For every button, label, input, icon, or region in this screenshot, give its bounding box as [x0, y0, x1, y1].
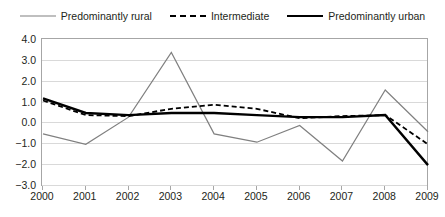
- legend-item[interactable]: Predominantly rural: [20, 10, 152, 22]
- legend-item-label: Predominantly urban: [328, 10, 425, 22]
- y-axis-tick-label: 4.0: [2, 33, 36, 45]
- legend-item-label: Intermediate: [211, 10, 269, 22]
- dashed-line-swatch-icon: [170, 11, 206, 21]
- y-axis-tick-label: −2.0: [2, 158, 36, 170]
- x-axis-tick-label: 2001: [73, 190, 96, 202]
- y-axis-tick-label: 1.0: [2, 96, 36, 108]
- x-axis-tick-label: 2006: [287, 190, 310, 202]
- x-axis-tick-label: 2003: [159, 190, 182, 202]
- y-axis-tick-label: 3.0: [2, 54, 36, 66]
- x-axis-tick-label: 2007: [330, 190, 353, 202]
- y-axis-tick-label: −1.0: [2, 137, 36, 149]
- legend-item[interactable]: Intermediate: [170, 10, 269, 22]
- thick-line-swatch-icon: [287, 11, 323, 21]
- y-axis-tick-label: 2.0: [2, 75, 36, 87]
- plot-area: [41, 38, 428, 186]
- x-axis-tick-label: 2005: [244, 190, 267, 202]
- x-axis-tick-label: 2002: [116, 190, 139, 202]
- y-axis: 4.03.02.01.00.0−1.0−2.0−3.0: [0, 38, 36, 186]
- x-axis: 2000200120022003200420052006200720082009: [41, 190, 428, 208]
- legend-item-label: Predominantly rural: [61, 10, 152, 22]
- line-swatch-icon: [20, 11, 56, 21]
- x-axis-tick-label: 2008: [373, 190, 396, 202]
- x-axis-tick-label: 2004: [201, 190, 224, 202]
- series-lines: [42, 39, 429, 187]
- chart-legend: Predominantly ruralIntermediatePredomina…: [0, 6, 445, 26]
- y-axis-tick-label: 0.0: [2, 116, 36, 128]
- legend-item[interactable]: Predominantly urban: [287, 10, 425, 22]
- x-axis-tick-label: 2000: [30, 190, 53, 202]
- series-line: [43, 98, 428, 165]
- line-chart: Predominantly ruralIntermediatePredomina…: [0, 0, 445, 217]
- x-axis-tick-label: 2009: [415, 190, 438, 202]
